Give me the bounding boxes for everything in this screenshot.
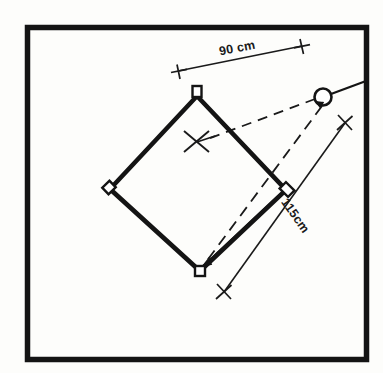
corner-marker-top [193,86,202,97]
corner-marker-bottom [195,266,205,276]
page-background [0,0,383,373]
figure-root: 90 cm 115cm [0,0,383,373]
plot-diagram: 90 cm 115cm [0,0,383,373]
